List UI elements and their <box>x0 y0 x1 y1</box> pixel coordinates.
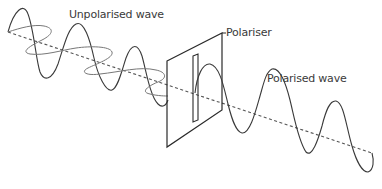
label-polarised-wave: Polarised wave <box>267 72 347 85</box>
polarisation-diagram <box>0 0 382 189</box>
label-unpolarised-wave: Unpolarised wave <box>69 8 164 21</box>
polariser-frame <box>167 33 222 147</box>
label-polariser: Polariser <box>226 26 272 39</box>
unpolarised-vertical-wave <box>8 8 168 106</box>
